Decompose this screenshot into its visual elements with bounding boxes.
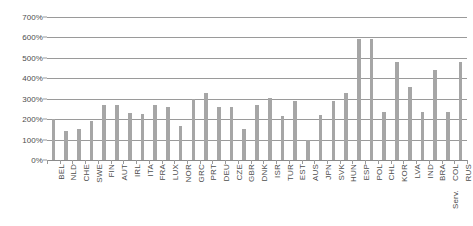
y-tick-label: 100% <box>22 135 43 144</box>
bar <box>421 112 425 160</box>
x-tick-label: CHE <box>82 164 91 182</box>
y-tick-label: 600% <box>22 33 43 42</box>
bar <box>446 112 450 160</box>
x-tick-label: DEU <box>222 164 231 182</box>
bar <box>115 105 119 160</box>
x-tick-label: BEL <box>57 164 66 180</box>
bar <box>306 140 310 160</box>
x-tick-label: LVA <box>413 164 422 179</box>
bar <box>64 131 68 160</box>
x-tick-label: EST <box>298 164 307 180</box>
x-tick-label: NOR <box>184 164 193 182</box>
x-tick-label: COL <box>451 164 460 181</box>
bar <box>255 105 259 160</box>
bar <box>204 93 208 160</box>
bar <box>242 129 246 160</box>
bar <box>459 62 463 160</box>
x-tick-label: IRL <box>133 164 142 177</box>
bar <box>77 129 81 160</box>
x-tick-label: KOR <box>400 164 409 182</box>
x-tick-label: GBR <box>247 164 256 182</box>
bar <box>268 98 272 160</box>
bar <box>281 116 285 160</box>
bar <box>370 39 374 160</box>
x-tick-label: ESP <box>362 164 371 181</box>
bar <box>408 87 412 160</box>
bar <box>332 101 336 160</box>
x-tick-label: AUS <box>311 164 320 181</box>
x-tick-label: SVK <box>337 164 346 181</box>
x-tick-label: AUT <box>120 164 129 181</box>
bar <box>102 105 106 160</box>
y-axis-labels: 0%100%200%300%400%500%600%700% <box>0 17 43 160</box>
bar <box>382 112 386 160</box>
bar <box>128 113 132 160</box>
y-tick-label: 500% <box>22 53 43 62</box>
x-tick-label: TUR <box>286 164 295 181</box>
bar <box>230 107 234 160</box>
bar <box>433 70 437 160</box>
x-tick-label: HUN <box>349 164 358 182</box>
x-axis-labels: BELNLDCHESWEFINAUTIRLITAFRALUXNORGRCPRTD… <box>47 164 467 226</box>
x-tick-label: LUX <box>171 164 180 180</box>
x-tick-label: POL <box>375 164 384 181</box>
x-tick-label: ITA <box>146 164 155 176</box>
x-tick-label: GRC <box>197 164 206 182</box>
x-tick-label: RUS <box>464 164 473 182</box>
x-tick-label: IND <box>426 164 435 178</box>
bar <box>90 121 94 160</box>
x-tick-label: CZE <box>235 164 244 181</box>
x-tick-label: FRA <box>158 164 167 181</box>
bars-group <box>47 17 467 160</box>
bar <box>217 107 221 160</box>
x-tick-label: JPN <box>324 164 333 180</box>
bar <box>293 101 297 160</box>
x-tick-label: SWE <box>95 164 104 183</box>
bar-chart: 0%100%200%300%400%500%600%700% BELNLDCHE… <box>0 0 473 226</box>
x-tick-label: FIN <box>107 164 116 178</box>
bar <box>166 107 170 160</box>
bar <box>357 39 361 160</box>
y-tick-label: 700% <box>22 13 43 22</box>
x-tick-label: PRT <box>209 164 218 180</box>
y-tick-label: 0% <box>31 156 43 165</box>
y-tick-label: 200% <box>22 115 43 124</box>
plot-area <box>47 17 467 160</box>
x-tick-label: NLD <box>69 164 78 181</box>
x-tick-label: ISR <box>273 164 282 178</box>
bar <box>52 119 56 160</box>
bar <box>153 105 157 160</box>
bar <box>192 99 196 160</box>
x-tick-label: DNK <box>260 164 269 182</box>
bar <box>395 62 399 160</box>
bar <box>141 114 145 160</box>
bar <box>344 93 348 160</box>
x-tick-label: CHL <box>387 164 396 181</box>
x-tick-label-secondary: Serv. <box>451 190 460 209</box>
bar <box>319 115 323 160</box>
y-tick-label: 400% <box>22 74 43 83</box>
x-tick-label: BRA <box>438 164 447 181</box>
y-tick-label: 300% <box>22 94 43 103</box>
bar <box>179 126 183 160</box>
